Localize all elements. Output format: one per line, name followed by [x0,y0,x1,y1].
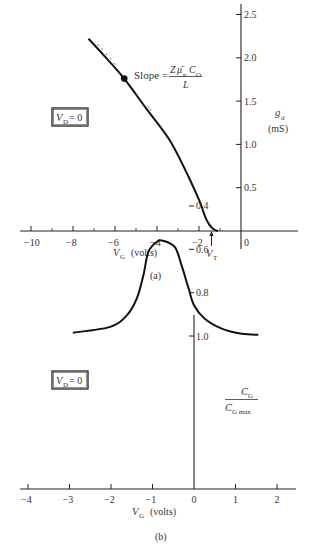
y-label-den-sub: G max [232,408,251,416]
x-tick-label: −2 [104,494,115,505]
y-tick-label: 2.5 [244,9,257,20]
x-tick-label: 2 [275,494,280,505]
x-label-unit: (volts) [150,506,176,518]
x-tick-label: −3 [63,494,74,505]
chart-b-caption: (b) [155,531,167,543]
x-tick-label: −10 [24,237,40,248]
x-label-unit: (volts) [131,247,157,259]
condition-sub: D [63,118,68,126]
slope-label: Slope = [134,69,168,81]
chart-a-condition-box: V D = 0 [52,108,88,126]
x-tick-label: 0 [192,494,197,505]
y-tick-label: 0.6 [196,244,209,255]
slope-numerator-mu-sub: n [183,71,187,79]
x-tick-label: 1 [233,494,238,505]
x-tick-label: 0 [244,237,249,248]
y-label-num-sub: G [248,392,253,400]
x-tick-label: −1 [146,494,157,505]
slope-numerator-c: C [189,64,196,75]
y-tick-label: 1.0 [244,139,257,150]
y-tick-label: 0.4 [196,200,209,211]
slope-point-marker [121,75,128,82]
y-tick-label: 0.5 [244,182,257,193]
y-label-unit: (mS) [268,123,288,135]
chart-b-curve [73,240,258,334]
slope-numerator-z: Z [170,64,176,75]
x-label-sub: G [139,512,144,520]
y-tick-label: 1.5 [244,96,257,107]
chart-a-y-label: g d (mS) [268,107,288,135]
y-label-main: g [275,107,280,118]
chart-b-x-ticks: −4−3−2−1012 [21,484,280,505]
y-tick-label: 0.8 [196,287,209,298]
threshold-label-sub: T [213,254,218,262]
y-tick-label: 2.0 [244,52,257,63]
condition-value: = 0 [69,112,82,123]
slope-denominator: L [182,79,189,90]
slope-annotation: Slope = Z μ̄ n C O L [134,64,202,90]
figure: −10−8−6−4−20 0.51.01.52.02.5 Slope = Z μ… [0,0,316,555]
y-tick-label: 1.0 [196,331,209,342]
condition-sub: D [63,381,68,389]
x-tick-label: −8 [66,237,77,248]
condition-value: = 0 [69,375,82,386]
chart-a-caption: (a) [150,270,161,282]
x-tick-label: −4 [21,494,32,505]
chart-b-y-label: C G C G max [225,386,258,416]
chart-b-x-label: V G (volts) [132,506,176,520]
chart-a-y-ticks: 0.51.01.52.02.5 [236,9,257,193]
chart-b-condition-box: V D = 0 [52,371,88,389]
x-label-sub: G [120,253,125,261]
y-label-sub: d [281,114,285,122]
slope-numerator-c-sub: O [196,71,201,79]
chart-b: −4−3−2−1012 0.40.60.81.0 V D = 0 C G C G… [20,200,296,543]
chart-b-axes [20,315,296,489]
